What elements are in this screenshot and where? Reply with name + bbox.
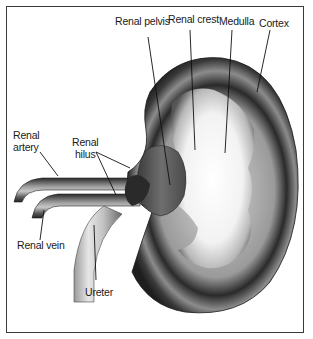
label-renal-artery-line2: artery	[13, 141, 39, 153]
label-ureter: Ureter	[85, 286, 113, 298]
label-renal-vein: Renal vein	[17, 239, 65, 251]
label-renal-hilus-line2: hilus	[72, 148, 98, 160]
label-renal-artery-line1: Renal	[13, 129, 39, 141]
renal-vein	[32, 194, 140, 218]
label-cortex: Cortex	[259, 17, 289, 29]
kidney-illustration	[0, 0, 313, 339]
label-renal-crest: Renal crest	[168, 13, 219, 25]
label-renal-hilus: Renal hilus	[72, 136, 98, 160]
label-renal-artery: Renal artery	[13, 129, 39, 153]
label-renal-hilus-line1: Renal	[72, 136, 98, 148]
label-medulla: Medulla	[219, 15, 254, 27]
label-renal-pelvis: Renal pelvis	[115, 15, 170, 27]
